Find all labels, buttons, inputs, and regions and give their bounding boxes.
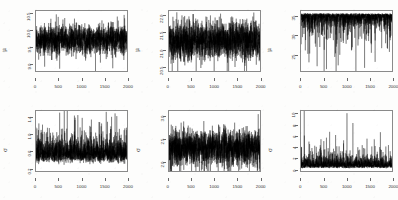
x-tick-label: 1500	[100, 84, 110, 89]
y-tick-mark	[163, 67, 166, 68]
x-tick-label: 1500	[233, 84, 243, 89]
y-tick-mark	[163, 139, 166, 140]
trace-line	[169, 11, 260, 71]
plot-area	[35, 10, 128, 72]
x-tick-label: 0	[299, 84, 301, 89]
x-tick-label: 1000	[77, 84, 87, 89]
x-tick-label: 500	[55, 84, 62, 89]
x-tick-mark	[191, 78, 192, 81]
x-tick-label: 1500	[233, 184, 243, 189]
x-tick-mark	[324, 178, 325, 181]
y-tick-mark	[295, 136, 298, 137]
x-tick-label: 0	[166, 84, 168, 89]
x-tick-label: 500	[187, 184, 194, 189]
trace-plot-grid: μ 9.09.510.010.5 0500100015002000 μ 20.5…	[0, 0, 398, 200]
x-axis-ticks: 0500100015002000	[265, 178, 398, 200]
panel-mu-3: μ 253035 0500100015002000	[265, 0, 398, 100]
x-axis-ticks: 0500100015002000	[265, 78, 398, 100]
panel-sigma-3: σ 0246810 0500100015002000	[265, 100, 398, 200]
x-tick-label: 500	[187, 84, 194, 89]
x-tick-mark	[191, 178, 192, 181]
plot-area	[300, 10, 393, 72]
x-tick-label: 2000	[388, 184, 398, 189]
trace-line	[36, 11, 127, 71]
plot-area	[300, 110, 393, 172]
x-tick-mark	[128, 178, 129, 181]
y-tick-mark	[163, 15, 166, 16]
panel-mu-1: μ 9.09.510.010.5 0500100015002000	[0, 0, 133, 100]
x-axis-ticks: 0500100015002000	[133, 178, 266, 200]
x-tick-label: 500	[55, 184, 62, 189]
x-tick-label: 1000	[342, 84, 352, 89]
panel-mu-2: μ 20.521.021.522.0 0500100015002000	[133, 0, 266, 100]
y-tick-mark	[295, 125, 298, 126]
x-tick-mark	[82, 78, 83, 81]
x-tick-label: 1000	[209, 84, 219, 89]
x-tick-mark	[105, 78, 106, 81]
x-tick-label: 2000	[388, 84, 398, 89]
y-tick-mark	[295, 113, 298, 114]
y-tick-mark	[163, 50, 166, 51]
x-axis-ticks: 0500100015002000	[0, 78, 133, 100]
y-tick-mark	[295, 147, 298, 148]
x-tick-mark	[237, 78, 238, 81]
x-tick-label: 1000	[342, 184, 352, 189]
x-tick-label: 1500	[100, 184, 110, 189]
y-tick-mark	[295, 16, 298, 17]
plot-area	[168, 10, 261, 72]
panel-sigma-2: σ 2.02.53.0 0500100015002000	[133, 100, 266, 200]
x-tick-mark	[237, 178, 238, 181]
x-tick-label: 0	[299, 184, 301, 189]
x-tick-mark	[82, 178, 83, 181]
x-tick-mark	[168, 78, 169, 81]
x-tick-label: 1000	[77, 184, 87, 189]
x-tick-label: 2000	[256, 184, 266, 189]
x-tick-label: 1000	[209, 184, 219, 189]
trace-line	[301, 111, 392, 171]
x-tick-label: 0	[166, 184, 168, 189]
y-tick-mark	[295, 170, 298, 171]
x-tick-mark	[261, 78, 262, 81]
y-tick-mark	[30, 47, 33, 48]
y-tick-mark	[163, 162, 166, 163]
x-tick-mark	[393, 78, 394, 81]
x-tick-label: 0	[34, 84, 36, 89]
x-axis-ticks: 0500100015002000	[133, 78, 266, 100]
x-tick-mark	[300, 78, 301, 81]
y-tick-mark	[295, 158, 298, 159]
x-tick-mark	[168, 178, 169, 181]
x-tick-label: 2000	[256, 84, 266, 89]
y-tick-mark	[30, 134, 33, 135]
x-tick-mark	[105, 178, 106, 181]
x-tick-mark	[214, 78, 215, 81]
plot-area	[35, 110, 128, 172]
y-tick-mark	[30, 169, 33, 170]
y-tick-mark	[30, 151, 33, 152]
x-tick-mark	[214, 178, 215, 181]
x-tick-mark	[347, 78, 348, 81]
trace-line	[169, 111, 260, 171]
plot-area	[168, 110, 261, 172]
y-tick-mark	[30, 64, 33, 65]
x-tick-mark	[347, 178, 348, 181]
x-axis-ticks: 0500100015002000	[0, 178, 133, 200]
y-tick-mark	[295, 35, 298, 36]
x-tick-mark	[58, 178, 59, 181]
x-tick-mark	[261, 178, 262, 181]
y-tick-mark	[30, 117, 33, 118]
x-tick-label: 1500	[365, 184, 375, 189]
panel-sigma-1: σ 0.20.61.01.4 0500100015002000	[0, 100, 133, 200]
x-tick-mark	[370, 78, 371, 81]
x-tick-mark	[128, 78, 129, 81]
x-tick-label: 2000	[123, 184, 133, 189]
x-tick-label: 0	[34, 184, 36, 189]
x-tick-mark	[300, 178, 301, 181]
y-tick-mark	[163, 32, 166, 33]
x-tick-label: 2000	[123, 84, 133, 89]
x-tick-mark	[393, 178, 394, 181]
trace-line	[301, 11, 392, 71]
y-tick-mark	[30, 13, 33, 14]
x-tick-mark	[324, 78, 325, 81]
x-tick-mark	[35, 178, 36, 181]
x-tick-mark	[58, 78, 59, 81]
